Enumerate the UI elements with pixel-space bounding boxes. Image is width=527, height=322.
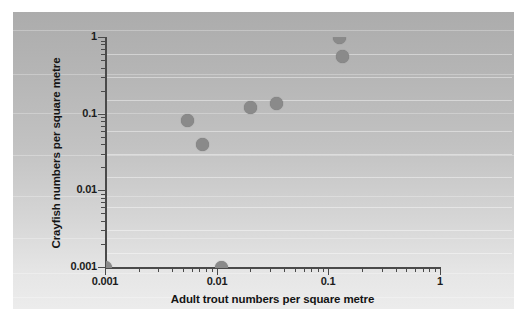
x-tick-major — [217, 267, 218, 275]
scatter-point — [244, 101, 257, 114]
scatter-point — [336, 50, 349, 63]
x-tick-label: 0.01 — [182, 275, 252, 287]
scatter-point — [106, 261, 112, 269]
x-tick-label: 0.1 — [293, 275, 363, 287]
scatter-markers — [106, 37, 512, 268]
scatter-point — [196, 138, 209, 151]
scatter-point — [215, 261, 228, 269]
scatter-point — [270, 97, 283, 110]
y-tick-major — [98, 190, 106, 191]
x-tick-major — [440, 267, 441, 275]
chart-panel: 0.0010.010.11 0.0010.010.11 Adult trout … — [13, 12, 514, 309]
x-tick-major — [328, 267, 329, 275]
x-tick-major — [105, 267, 106, 275]
y-axis-title: Crayfish numbers per square metre — [50, 48, 62, 258]
scatter-point — [333, 37, 346, 44]
y-tick-major — [98, 114, 106, 115]
x-tick-label: 0.001 — [70, 275, 140, 287]
y-tick-label: 0.001 — [13, 260, 97, 272]
x-axis-title: Adult trout numbers per square metre — [105, 293, 440, 305]
y-tick-major — [98, 37, 106, 38]
figure-root: 0.0010.010.11 0.0010.010.11 Adult trout … — [0, 0, 527, 322]
plot-area: 0.0010.010.11 0.0010.010.11 Adult trout … — [13, 12, 514, 309]
x-tick-label: 1 — [405, 275, 475, 287]
y-tick-label: 1 — [13, 30, 97, 42]
scatter-point — [181, 114, 194, 127]
